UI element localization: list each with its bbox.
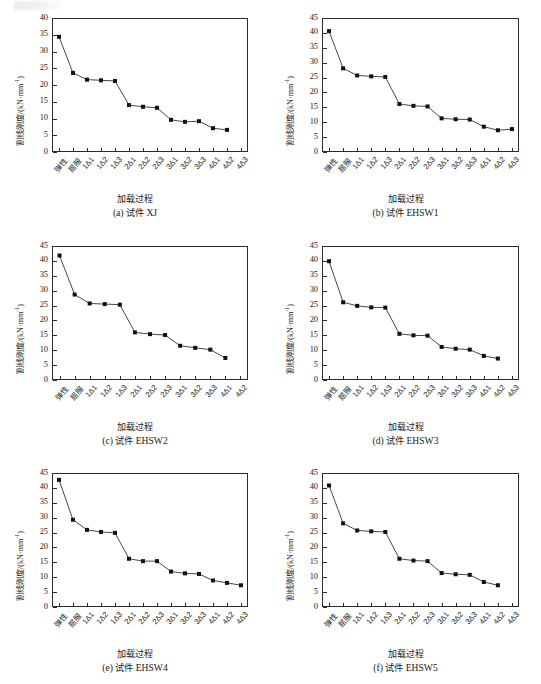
data-point-marker <box>327 259 331 263</box>
data-point-marker <box>355 73 359 77</box>
data-point-marker <box>208 348 212 352</box>
data-point-marker <box>73 293 77 297</box>
data-point-marker <box>468 573 472 577</box>
data-point-marker <box>397 102 401 106</box>
data-point-marker <box>341 521 345 525</box>
data-point-marker <box>239 583 243 587</box>
series-layer <box>0 0 270 228</box>
data-point-marker <box>57 35 61 39</box>
data-point-marker <box>169 570 173 574</box>
data-point-marker <box>383 306 387 310</box>
chart-panel-b: 051015202530354045割线刚度/(kN·mm-1)弹性屈服1Δ11… <box>270 0 541 228</box>
data-point-marker <box>454 572 458 576</box>
data-point-marker <box>57 478 61 482</box>
data-point-marker <box>163 333 167 337</box>
data-point-marker <box>141 105 145 109</box>
data-point-marker <box>127 103 131 107</box>
data-point-marker <box>369 529 373 533</box>
data-point-marker <box>355 304 359 308</box>
data-point-marker <box>148 332 152 336</box>
data-point-marker <box>496 357 500 361</box>
data-point-marker <box>223 356 227 360</box>
data-point-marker <box>482 125 486 129</box>
data-point-marker <box>71 71 75 75</box>
data-point-marker <box>113 79 117 83</box>
data-point-marker <box>383 530 387 534</box>
data-point-marker <box>197 119 201 123</box>
data-point-marker <box>468 118 472 122</box>
data-point-marker <box>211 126 215 130</box>
data-point-marker <box>369 305 373 309</box>
series-layer <box>270 228 541 455</box>
series-layer <box>270 0 541 228</box>
data-point-marker <box>440 116 444 120</box>
data-point-marker <box>411 333 415 337</box>
data-point-marker <box>397 332 401 336</box>
data-point-marker <box>133 330 137 334</box>
data-point-marker <box>193 346 197 350</box>
data-point-marker <box>118 303 122 307</box>
data-point-marker <box>426 104 430 108</box>
series-line <box>59 480 241 585</box>
chart-panel-c: 051015202530354045割线刚度/(kN·mm-1)弹性屈服1Δ11… <box>0 228 270 455</box>
data-point-marker <box>482 580 486 584</box>
figure-grid: 0510152025303540割线刚度/(kN·mm-1)弹性屈服1Δ11Δ2… <box>0 0 541 684</box>
data-point-marker <box>341 300 345 304</box>
data-point-marker <box>510 127 514 131</box>
data-point-marker <box>178 344 182 348</box>
data-point-marker <box>327 484 331 488</box>
data-point-marker <box>99 530 103 534</box>
data-point-marker <box>426 334 430 338</box>
data-point-marker <box>155 106 159 110</box>
data-point-marker <box>440 345 444 349</box>
chart-panel-e: 051015202530354045割线刚度/(kN·mm-1)弹性屈服1Δ11… <box>0 455 270 684</box>
data-point-marker <box>383 75 387 79</box>
data-point-marker <box>496 583 500 587</box>
data-point-marker <box>411 104 415 108</box>
data-point-marker <box>183 571 187 575</box>
series-line <box>329 486 498 586</box>
series-layer <box>0 455 270 684</box>
data-point-marker <box>183 120 187 124</box>
chart-panel-f: 051015202530354045割线刚度/(kN·mm-1)弹性屈服1Δ11… <box>270 455 541 684</box>
data-point-marker <box>155 559 159 563</box>
data-point-marker <box>355 528 359 532</box>
chart-panel-a: 0510152025303540割线刚度/(kN·mm-1)弹性屈服1Δ11Δ2… <box>0 0 270 228</box>
series-line <box>329 261 498 358</box>
data-point-marker <box>113 531 117 535</box>
data-point-marker <box>85 78 89 82</box>
data-point-marker <box>85 528 89 532</box>
data-point-marker <box>71 518 75 522</box>
data-point-marker <box>454 117 458 121</box>
series-layer <box>0 228 270 455</box>
data-point-marker <box>197 572 201 576</box>
data-point-marker <box>496 128 500 132</box>
series-line <box>329 31 512 130</box>
data-point-marker <box>468 348 472 352</box>
data-point-marker <box>99 78 103 82</box>
data-point-marker <box>482 354 486 358</box>
data-point-marker <box>426 559 430 563</box>
data-point-marker <box>440 571 444 575</box>
data-point-marker <box>369 74 373 78</box>
data-point-marker <box>454 347 458 351</box>
chart-panel-d: 051015202530354045割线刚度/(kN·mm-1)弹性屈服1Δ11… <box>270 228 541 455</box>
data-point-marker <box>169 118 173 122</box>
series-layer <box>270 455 541 684</box>
data-point-marker <box>341 66 345 70</box>
data-point-marker <box>211 579 215 583</box>
data-point-marker <box>411 559 415 563</box>
data-point-marker <box>141 559 145 563</box>
series-line <box>59 37 227 130</box>
data-point-marker <box>225 128 229 132</box>
data-point-marker <box>327 29 331 33</box>
data-point-marker <box>103 302 107 306</box>
data-point-marker <box>225 581 229 585</box>
data-point-marker <box>88 301 92 305</box>
data-point-marker <box>127 557 131 561</box>
series-line <box>60 256 226 358</box>
data-point-marker <box>58 254 62 258</box>
data-point-marker <box>397 557 401 561</box>
